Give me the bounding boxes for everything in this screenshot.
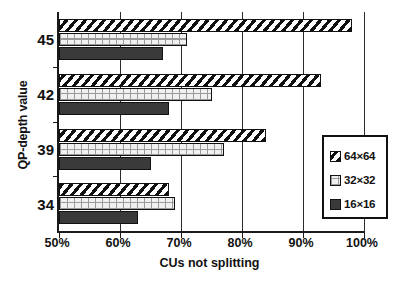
y-axis-label-34: 34 (14, 195, 54, 212)
x-axis-label-90: 90% (271, 236, 331, 250)
legend-item-16x16: 16×16 (330, 192, 386, 216)
y-axis-label-45: 45 (14, 31, 54, 48)
legend-label: 32×32 (344, 174, 375, 186)
y-axis-tick (53, 67, 59, 68)
legend-swatch-64x64-icon (330, 151, 341, 162)
bar-group (59, 67, 364, 122)
bar-group (59, 176, 364, 231)
x-axis-label-100: 100% (332, 236, 392, 250)
x-axis-label-70: 70% (149, 236, 209, 250)
x-axis-label-50: 50% (27, 236, 87, 250)
y-axis-tick (53, 122, 59, 123)
bar-32x32-qp39 (59, 143, 224, 156)
legend-swatch-32x32-icon (330, 175, 341, 186)
bar-chart: QP-depth value 45423934 50%60%70%80%90%1… (0, 0, 398, 283)
legend-item-32x32: 32×32 (330, 168, 386, 192)
y-axis-label-39: 39 (14, 140, 54, 157)
bar-64x64-qp39 (59, 129, 266, 142)
x-axis-label-60: 60% (88, 236, 148, 250)
bar-32x32-qp45 (59, 33, 187, 46)
legend-label: 64×64 (344, 150, 375, 162)
bar-64x64-qp45 (59, 19, 352, 32)
x-axis-title: CUs not splitting (57, 256, 362, 270)
bar-64x64-qp34 (59, 183, 169, 196)
bar-group (59, 12, 364, 67)
plot-area (57, 12, 364, 233)
y-axis-label-42: 42 (14, 86, 54, 103)
legend-label: 16×16 (344, 198, 375, 210)
y-axis-tick-labels: 45423934 (14, 12, 54, 231)
legend-item-64x64: 64×64 (330, 144, 386, 168)
y-axis-tick (53, 176, 59, 177)
bar-64x64-qp42 (59, 74, 321, 87)
bar-32x32-qp34 (59, 197, 175, 210)
bar-16x16-qp42 (59, 102, 169, 115)
legend-swatch-16x16-icon (330, 199, 341, 210)
chart-legend: 64×6432×3216×16 (322, 135, 388, 219)
x-axis-tick-labels: 50%60%70%80%90%100% (0, 236, 398, 254)
x-axis-label-80: 80% (210, 236, 270, 250)
bar-16x16-qp45 (59, 47, 163, 60)
bar-group (59, 122, 364, 177)
bar-16x16-qp39 (59, 157, 151, 170)
bar-16x16-qp34 (59, 211, 138, 224)
bar-32x32-qp42 (59, 88, 212, 101)
